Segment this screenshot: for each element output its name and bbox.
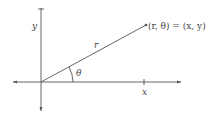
radius-label: r <box>94 40 99 50</box>
radius-line <box>41 25 146 82</box>
point-label: (r, θ) = (x, y) <box>148 21 206 31</box>
polar-diagram: y x r θ (r, θ) = (x, y) <box>0 0 223 117</box>
x-axis-arrow-left <box>13 81 17 84</box>
point-marker <box>145 24 148 27</box>
angle-label: θ <box>76 68 82 78</box>
x-tick-label: x <box>142 87 147 97</box>
y-axis-arrow-down <box>40 107 43 111</box>
y-axis-label: y <box>31 21 38 31</box>
angle-arc <box>69 67 73 82</box>
x-axis-arrow-right <box>177 81 181 84</box>
